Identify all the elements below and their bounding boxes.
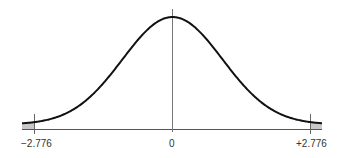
t-distribution-diagram — [0, 0, 338, 158]
left-critical-label: −2.776 — [21, 138, 52, 149]
right-critical-label: +2.776 — [296, 138, 327, 149]
center-label: 0 — [169, 138, 175, 149]
